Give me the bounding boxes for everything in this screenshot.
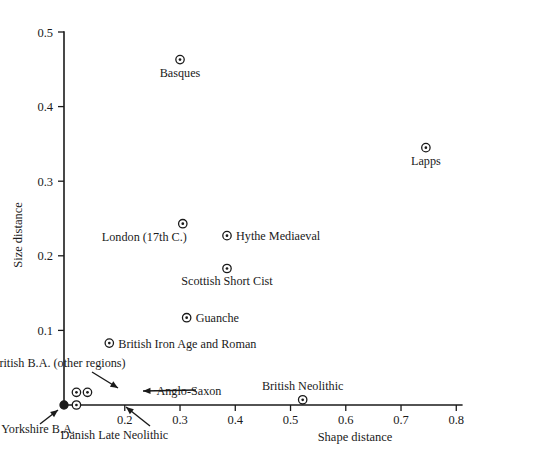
data-point-label: Basques — [160, 66, 201, 80]
data-point: British Iron Age and Roman — [105, 337, 256, 351]
data-point-label: British Iron Age and Roman — [118, 337, 256, 351]
data-point-label: Guanche — [196, 311, 239, 325]
marker-center-dot — [179, 58, 182, 61]
x-tick-label: 0.8 — [448, 413, 464, 427]
x-tick-label: 0.4 — [227, 413, 243, 427]
y-tick-label: 0.4 — [37, 100, 53, 114]
marker-center-dot — [226, 234, 229, 237]
x-tick-label: 0.7 — [393, 413, 409, 427]
data-point: London (17th C.) — [102, 220, 187, 244]
data-point: Danish Late Neolithic — [61, 401, 169, 442]
x-tick-label: 0.2 — [117, 413, 133, 427]
data-point-label: British Neolithic — [262, 379, 344, 393]
marker-center-dot — [185, 316, 188, 319]
data-point-label: Anglo-Saxon — [156, 384, 221, 398]
y-tick-label: 0.2 — [37, 249, 53, 263]
marker-center-dot — [108, 342, 111, 345]
annotation-arrow-head — [143, 388, 151, 394]
data-point: British B.A. (other regions) — [0, 356, 126, 396]
x-tick-label: 0.6 — [338, 413, 354, 427]
marker-center-dot — [226, 267, 229, 270]
data-point-label: British B.A. (other regions) — [0, 356, 126, 370]
data-point: Basques — [160, 55, 201, 79]
marker-filled-circle — [60, 401, 68, 409]
marker-center-dot — [181, 222, 184, 225]
data-point-label: Danish Late Neolithic — [61, 428, 169, 442]
data-point: British Neolithic — [262, 379, 344, 404]
data-point: Scottish Short Cist — [181, 264, 273, 288]
data-point-label: Lapps — [411, 154, 441, 168]
marker-center-dot — [425, 146, 428, 149]
y-tick-label: 0.1 — [37, 324, 53, 338]
marker-center-dot — [75, 404, 78, 407]
y-axis-ticks: 0.10.20.30.40.5 — [37, 26, 64, 338]
x-tick-label: 0.3 — [172, 413, 188, 427]
marker-center-dot — [86, 391, 89, 394]
data-points: BasquesLappsLondon (17th C.)Hythe Mediae… — [0, 55, 441, 442]
figure-root: 0.10.20.30.40.5 0.20.30.40.50.60.70.8 Ba… — [0, 0, 549, 474]
data-point: Guanche — [182, 311, 239, 325]
y-axis-title: Size distance — [11, 202, 25, 268]
x-axis-title: Shape distance — [318, 430, 393, 444]
annotation-arrow-head — [110, 381, 118, 388]
marker-center-dot — [301, 398, 304, 401]
scatter-plot: 0.10.20.30.40.5 0.20.30.40.50.60.70.8 Ba… — [0, 0, 549, 474]
data-point-label: London (17th C.) — [102, 230, 187, 244]
x-tick-label: 0.5 — [283, 413, 299, 427]
marker-center-dot — [75, 391, 78, 394]
y-tick-label: 0.5 — [37, 26, 53, 40]
data-point-label: Scottish Short Cist — [181, 274, 273, 288]
data-point: Hythe Mediaeval — [223, 229, 321, 243]
data-point: Lapps — [411, 143, 441, 167]
data-point-label: Hythe Mediaeval — [236, 229, 321, 243]
x-axis-ticks: 0.20.30.40.50.60.70.8 — [117, 405, 464, 427]
y-tick-label: 0.3 — [37, 175, 53, 189]
